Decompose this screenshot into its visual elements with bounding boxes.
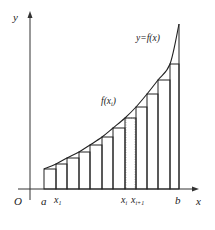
rectangle (90, 145, 102, 189)
rectangle (102, 137, 113, 189)
x-axis-arrow-icon (192, 187, 199, 192)
rectangle (56, 164, 67, 189)
curve-y-fx (44, 24, 179, 169)
rectangle (136, 107, 147, 189)
rectangle (147, 94, 158, 189)
sample-label: f(xi) (101, 96, 116, 107)
y-axis-arrow-icon (28, 11, 33, 18)
curve-label: y=f(x) (135, 33, 160, 44)
y-axis-label: y (12, 11, 18, 23)
rectangle (44, 169, 56, 189)
rectangle (67, 158, 79, 189)
rectangle (170, 64, 179, 189)
highlighted-strip (126, 118, 135, 189)
rectangle (113, 128, 125, 189)
tick-label-xi: xi (120, 194, 127, 206)
tick-label-x1: x1 (53, 194, 61, 206)
rectangle (158, 80, 170, 189)
x-axis-label: x (195, 195, 201, 207)
origin-label: O (14, 195, 22, 207)
tick-label-a: a (41, 195, 47, 207)
rectangle (125, 118, 136, 189)
riemann-sum-diagram: y x O y=f(x) f(xi) a x1 xi xi+1 b (0, 0, 215, 230)
tick-label-b: b (175, 194, 181, 206)
rectangle (79, 152, 90, 189)
tick-label-xi1: xi+1 (130, 194, 144, 206)
